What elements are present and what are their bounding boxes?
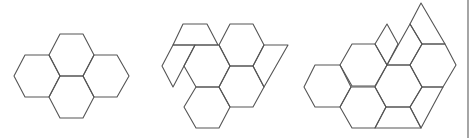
trapezoid-upper bbox=[387, 24, 422, 65]
figure-2-hexagons-with-pieces bbox=[162, 24, 288, 128]
hexagon-top-right bbox=[219, 24, 264, 66]
hexagon-center bbox=[184, 45, 230, 87]
hexagon-top bbox=[49, 34, 94, 76]
hexagon-center-right bbox=[375, 65, 422, 107]
trapezoid-bottom bbox=[375, 107, 421, 128]
hexagon-lower bbox=[340, 87, 386, 128]
rhombus-top bbox=[375, 24, 398, 65]
parallelogram-left bbox=[162, 45, 195, 87]
hexagon-bottom bbox=[49, 76, 94, 118]
hexagon-right-middle bbox=[219, 66, 264, 107]
hexagon-tiling-diagram bbox=[0, 0, 474, 138]
triangle-top bbox=[410, 3, 445, 44]
hexagon-left bbox=[14, 55, 60, 97]
hexagon-right bbox=[83, 55, 129, 97]
parallelogram-right bbox=[253, 45, 288, 87]
figure-1-four-hexagons bbox=[14, 34, 129, 118]
hexagon-bottom bbox=[184, 87, 230, 128]
hexagon-right bbox=[410, 44, 456, 87]
parallelogram-lower-right bbox=[410, 87, 443, 128]
figure-3-hexagons-with-pieces bbox=[304, 3, 456, 128]
trapezoid-top-left bbox=[173, 24, 218, 45]
